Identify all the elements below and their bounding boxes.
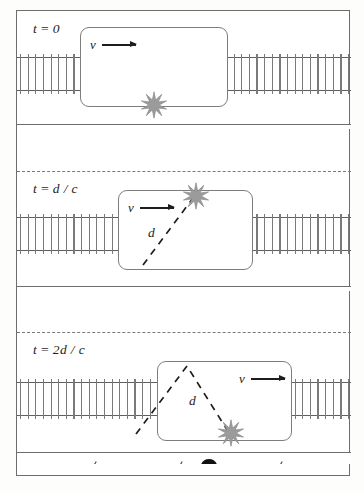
track-tie: [73, 379, 74, 419]
track-tie: [234, 54, 235, 94]
track-tie: [142, 379, 143, 419]
track-tie: [317, 214, 318, 254]
track-tie: [287, 214, 288, 254]
track-tie: [89, 379, 90, 419]
track-tie: [43, 54, 44, 94]
track-tie: [279, 54, 280, 94]
track-tie: [348, 379, 349, 419]
track-tie: [310, 379, 311, 419]
track-tie: [43, 379, 44, 419]
track-tie: [66, 214, 67, 254]
distance-label-tdc: d: [148, 225, 155, 241]
ground-strip-2dc: [17, 453, 351, 464]
track-tie: [20, 214, 21, 254]
track-tie: [112, 214, 113, 254]
track-tie: [35, 54, 36, 94]
track-tie: [73, 54, 74, 94]
track-tie: [310, 54, 311, 94]
track-tie: [104, 214, 105, 254]
panel-tdc-scene: t = d / c v d: [17, 173, 351, 291]
track-tie: [272, 54, 273, 94]
track-tie: [66, 54, 67, 94]
track-tie: [287, 54, 288, 94]
track-tie: [51, 379, 52, 419]
time-label-2dc: t = 2d / c: [33, 342, 85, 358]
track-tie: [340, 379, 341, 419]
panel-tdc: t = d / c v d: [17, 173, 351, 291]
ground-observer-2dc: [185, 455, 233, 464]
track-tie: [51, 214, 52, 254]
panel-2dc-scene: t = 2d / c v d: [17, 334, 351, 459]
track-tie: [134, 379, 135, 419]
track-tie: [58, 214, 59, 254]
light-flash-t0: [140, 91, 168, 123]
light-flash-tdc: [182, 182, 210, 214]
track-tie: [73, 214, 74, 254]
panel-2dc: t = 2d / c v d: [17, 334, 351, 464]
ground-strip-t0: [17, 125, 351, 129]
track-tie: [35, 214, 36, 254]
track-tie: [28, 379, 29, 419]
ground-observer-tdc: [185, 289, 233, 291]
ground-strip-tdc: [17, 287, 351, 291]
light-flash-2dc: [217, 419, 245, 451]
track-tie: [20, 379, 21, 419]
track-tie: [249, 54, 250, 94]
track-tie: [66, 379, 67, 419]
time-label-t0: t = 0: [33, 21, 60, 37]
track-tie: [241, 54, 242, 94]
panel-t0-scene: t = 0 v: [17, 11, 351, 129]
separator-dashed-2: [17, 332, 351, 333]
track-tie: [20, 54, 21, 94]
track-tie: [96, 379, 97, 419]
track-tie: [81, 379, 82, 419]
track-tie: [279, 214, 280, 254]
track-tie: [272, 214, 273, 254]
track-tie: [81, 214, 82, 254]
track-tie: [58, 379, 59, 419]
track-tie: [150, 379, 151, 419]
track-tie: [112, 379, 113, 419]
arrow-shaft-icon: [140, 207, 174, 208]
track-tie: [256, 54, 257, 94]
track-tie: [325, 54, 326, 94]
arrow-shaft-icon: [102, 44, 136, 45]
track-tie: [43, 214, 44, 254]
track-tie: [295, 54, 296, 94]
track-tie: [302, 379, 303, 419]
separator-dashed-1: [17, 171, 351, 172]
distance-label-2dc: d: [189, 393, 196, 409]
track-tie: [333, 54, 334, 94]
track-tie: [264, 54, 265, 94]
track-tie: [256, 214, 257, 254]
track-tie: [127, 379, 128, 419]
track-tie: [340, 214, 341, 254]
track-tie: [96, 214, 97, 254]
track-tie: [317, 54, 318, 94]
track-tie: [104, 379, 105, 419]
track-tie: [119, 379, 120, 419]
velocity-arrow-t0: v: [90, 37, 136, 53]
ground-observer-t0: [185, 127, 233, 129]
track-tie: [28, 214, 29, 254]
track-tie: [302, 54, 303, 94]
track-tie: [348, 54, 349, 94]
track-tie: [28, 54, 29, 94]
track-tie: [333, 214, 334, 254]
track-tie: [325, 214, 326, 254]
track-tie: [340, 54, 341, 94]
track-tie: [325, 379, 326, 419]
track-tie: [264, 214, 265, 254]
track-tie: [333, 379, 334, 419]
track-tie: [348, 214, 349, 254]
track-tie: [51, 54, 52, 94]
time-label-tdc: t = d / c: [33, 181, 78, 197]
track-tie: [89, 214, 90, 254]
figure-frame: t = 0 v: [16, 10, 350, 476]
relativity-light-clock-figure: t = 0 v: [0, 0, 364, 492]
track-tie: [35, 379, 36, 419]
track-tie: [58, 54, 59, 94]
velocity-arrow-tdc: v: [128, 200, 174, 216]
velocity-arrow-2dc: v: [239, 371, 285, 387]
track-tie: [295, 214, 296, 254]
